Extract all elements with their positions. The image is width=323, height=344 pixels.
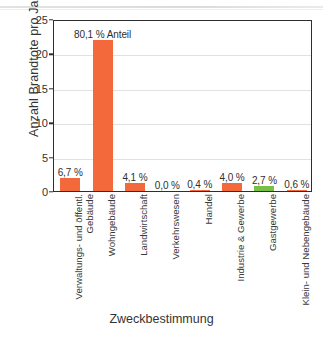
x-axis-category-label: Landwirtschaft <box>139 194 150 306</box>
bar-value-label: 6,7 % <box>58 167 83 178</box>
y-axis-tick-label: 15 <box>8 83 48 95</box>
bar[interactable] <box>222 183 242 191</box>
bar-value-label: 4,0 % <box>220 172 245 183</box>
bar-value-label: 2,7 % <box>252 175 277 186</box>
scan-artifact-line <box>0 6 323 8</box>
x-axis-category-label: Klein- und Nebengebäude <box>301 194 312 306</box>
x-axis-title: Zweckbestimmung <box>0 312 323 326</box>
bar-value-label: 4,1 % <box>122 172 147 183</box>
y-axis-tick-label: 25 <box>8 14 48 26</box>
chart-plot-area: 6,7 %80,1 % Anteil4,1 %0,0 %0,4 %4,0 %2,… <box>53 20 312 192</box>
y-axis-tick-label: 5 <box>8 152 48 164</box>
x-axis-category-labels: Verwaltungs- und öffentl. GebäudeWohngeb… <box>53 194 312 306</box>
y-axis-tick-label: 10 <box>8 117 48 129</box>
x-axis-category-label: Gastgewerbe <box>268 194 279 306</box>
y-axis-tick-label: 20 <box>8 48 48 60</box>
x-axis-category-label: Verkehrswesen <box>171 194 182 306</box>
scan-artifact-line-secondary <box>0 9 323 10</box>
bar[interactable] <box>60 178 80 191</box>
bar[interactable] <box>254 186 274 191</box>
bar-value-label: 0,4 % <box>187 179 212 190</box>
bar[interactable] <box>125 183 145 191</box>
bar-value-label: 80,1 % Anteil <box>74 29 131 40</box>
x-axis-category-label: Industrie & Gewerbe <box>236 194 247 306</box>
x-axis-category-label: Handel <box>204 194 215 306</box>
bar-value-label: 0,0 % <box>155 180 180 191</box>
y-axis-tick-label: 0 <box>8 186 48 198</box>
chart-plot-inner: 6,7 %80,1 % Anteil4,1 %0,0 %0,4 %4,0 %2,… <box>54 21 311 191</box>
x-axis-category-label: Wohngebäude <box>107 194 118 306</box>
bar[interactable] <box>93 40 113 191</box>
x-axis-category-label: Verwaltungs- und öffentl. Gebäude <box>74 194 95 306</box>
bar-value-label: 0,6 % <box>284 179 309 190</box>
